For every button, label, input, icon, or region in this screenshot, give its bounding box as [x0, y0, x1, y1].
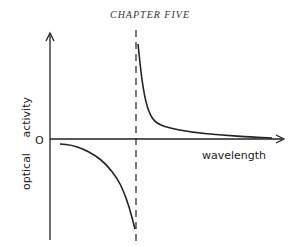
y-axis-label: optical activity [20, 97, 33, 190]
origin-label: O [35, 134, 44, 147]
ord-diagram: O wavelength optical activity [0, 0, 300, 246]
curve-right-branch [138, 44, 272, 138]
curve-left-branch [60, 144, 135, 229]
x-axis-label: wavelength [202, 149, 266, 162]
